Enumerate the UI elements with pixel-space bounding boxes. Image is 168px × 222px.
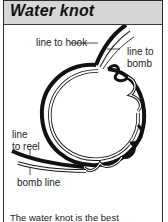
caption-text: The water knot is the best xyxy=(10,212,119,222)
label-line-to-reel-2: to reel xyxy=(12,141,40,152)
label-bomb-line: bomb line xyxy=(17,177,60,188)
label-line-to-bomb-1: line to xyxy=(127,46,154,57)
label-line-to-bomb-2: bomb xyxy=(127,58,152,69)
knot-panel: Water knot xyxy=(3,0,163,222)
panel-title: Water knot xyxy=(10,2,94,20)
water-knot-diagram: line to hook line to bomb line to reel b… xyxy=(4,25,162,205)
panel-header: Water knot xyxy=(4,1,162,25)
label-line-to-reel-1: line xyxy=(12,129,28,140)
label-line-to-hook: line to hook xyxy=(36,37,87,48)
